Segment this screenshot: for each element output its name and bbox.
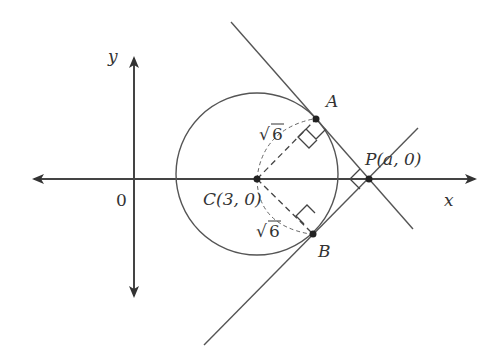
svg-text:√: √ xyxy=(256,221,267,241)
point-A-label: A xyxy=(324,91,338,111)
y-axis-label: y xyxy=(107,46,118,66)
point-P-label: P(a, 0) xyxy=(364,149,421,169)
point-A xyxy=(313,116,320,123)
point-C xyxy=(254,176,261,183)
diagram-canvas: y x 0 A B C(3, 0) P(a, 0) √ 6 √ 6 xyxy=(0,0,502,352)
point-P xyxy=(366,176,373,183)
right-angle-mark-B xyxy=(296,205,315,224)
sqrt6-lower-label: √ 6 xyxy=(256,221,281,241)
point-B-label: B xyxy=(317,241,331,261)
svg-text:6: 6 xyxy=(269,221,280,241)
svg-text:√: √ xyxy=(259,124,270,144)
x-axis-label: x xyxy=(444,190,454,210)
point-C-label: C(3, 0) xyxy=(203,189,262,209)
point-B xyxy=(310,231,317,238)
sqrt6-upper-label: √ 6 xyxy=(259,124,284,144)
origin-label: 0 xyxy=(116,190,127,210)
svg-text:6: 6 xyxy=(272,124,283,144)
